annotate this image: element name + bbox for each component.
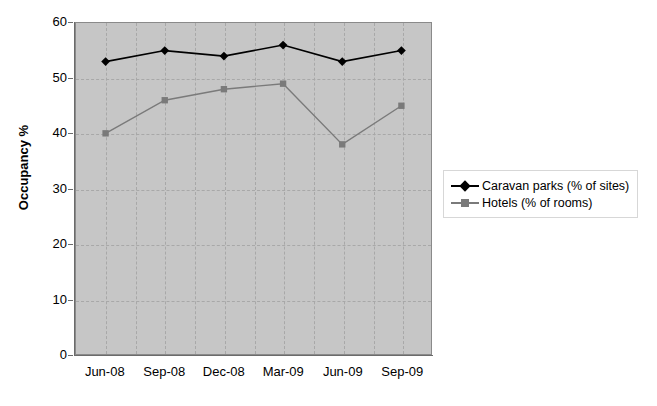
x-axis-line (74, 355, 433, 356)
y-tick-label: 30 (33, 182, 67, 195)
x-tick-label: Sep-09 (362, 364, 442, 379)
data-point-marker (339, 141, 345, 147)
y-tick-mark (68, 355, 73, 356)
legend-symbol (461, 199, 469, 207)
data-point-marker (398, 103, 404, 109)
legend-item[interactable]: Caravan parks (% of sites) (450, 177, 629, 194)
data-point-marker (397, 46, 406, 55)
legend-label: Hotels (% of rooms) (482, 196, 592, 210)
data-point-marker (279, 41, 288, 50)
y-tick-label: 20 (33, 237, 67, 250)
y-tick-mark (68, 244, 73, 245)
y-tick-mark (68, 22, 73, 23)
y-tick-label: 40 (33, 126, 67, 139)
data-point-marker (102, 130, 108, 136)
y-axis-title: Occupancy % (16, 108, 31, 228)
series-layer (76, 23, 431, 354)
data-point-marker (162, 97, 168, 103)
data-point-marker (221, 86, 227, 92)
series-line (106, 45, 402, 62)
plot-area (75, 22, 432, 355)
y-tick-label: 0 (33, 348, 67, 361)
y-tick-mark (68, 78, 73, 79)
y-tick-mark (68, 133, 73, 134)
legend-item[interactable]: Hotels (% of rooms) (450, 194, 629, 211)
series-line (106, 84, 402, 145)
y-tick-label: 60 (33, 15, 67, 28)
y-tick-label: 10 (33, 293, 67, 306)
data-point-marker (280, 81, 286, 87)
occupancy-line-chart: Occupancy % 6050403020100 Jun-08Sep-08De… (0, 0, 657, 406)
y-tick-mark (68, 300, 73, 301)
data-point-marker (338, 57, 347, 66)
y-tick-mark (68, 189, 73, 190)
data-point-marker (101, 57, 110, 66)
diamond-marker-icon (450, 179, 480, 193)
legend-label: Caravan parks (% of sites) (482, 179, 629, 193)
legend-symbol (459, 180, 470, 191)
y-axis-ticks: 6050403020100 (30, 0, 67, 406)
square-marker-icon (450, 196, 480, 210)
data-point-marker (220, 52, 229, 61)
chart-legend: Caravan parks (% of sites)Hotels (% of r… (443, 170, 638, 218)
data-point-marker (160, 46, 169, 55)
y-tick-label: 50 (33, 71, 67, 84)
